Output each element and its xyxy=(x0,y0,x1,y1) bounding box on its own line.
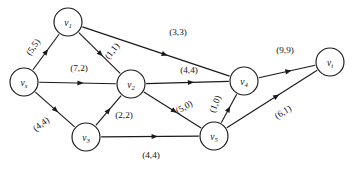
graph-node-v2[interactable]: v2 xyxy=(117,70,145,98)
edge-arrowhead xyxy=(152,134,158,139)
edge-label: (1,0) xyxy=(207,94,223,114)
edge-arrowhead xyxy=(42,49,48,56)
edge-label: (6,1) xyxy=(273,103,293,121)
edge-arrowhead xyxy=(161,51,168,56)
graph-node-v3[interactable]: v3 xyxy=(72,123,100,151)
graph-edge xyxy=(39,80,116,85)
graph-edge xyxy=(259,65,315,77)
edge-label: (5,0) xyxy=(174,98,194,115)
edge-label: (4,4) xyxy=(142,150,160,160)
edge-arrowhead xyxy=(77,80,83,85)
edge-arrowhead xyxy=(273,94,280,100)
edge-labels-layer: (5,5)(7,2)(4,4)(1,1)(3,3)(4,4)(5,0)(2,2)… xyxy=(24,27,294,160)
graph-canvas: vsv1v2v3v4v5vt (5,5)(7,2)(4,4)(1,1)(3,3)… xyxy=(0,0,352,169)
graph-edge xyxy=(146,80,229,85)
edge-line xyxy=(146,81,229,83)
edges-layer xyxy=(33,27,317,139)
graph-edge xyxy=(144,92,201,128)
edge-label: (4,4) xyxy=(31,115,51,134)
graph-node-v5[interactable]: v5 xyxy=(200,122,228,150)
edge-label: (5,5) xyxy=(24,37,42,57)
graph-node-vt[interactable]: vt xyxy=(316,48,344,76)
flow-network-figure: vsv1v2v3v4v5vt (5,5)(7,2)(4,4)(1,1)(3,3)… xyxy=(0,0,352,169)
edge-line xyxy=(101,136,199,137)
edge-arrowhead xyxy=(188,80,194,85)
graph-node-v4[interactable]: v4 xyxy=(230,67,258,95)
edge-label: (7,2) xyxy=(70,63,88,73)
edge-label: (4,4) xyxy=(180,65,198,75)
edge-label: (1,1) xyxy=(103,41,122,61)
edge-label: (2,2) xyxy=(115,110,133,120)
edge-arrowhead xyxy=(285,69,292,74)
graph-edge xyxy=(221,94,236,122)
edge-label: (9,9) xyxy=(276,45,294,55)
edge-label: (3,3) xyxy=(169,27,187,37)
graph-node-v1[interactable]: v1 xyxy=(54,8,82,36)
graph-edge xyxy=(101,134,199,139)
graph-node-vs[interactable]: vs xyxy=(10,68,38,96)
